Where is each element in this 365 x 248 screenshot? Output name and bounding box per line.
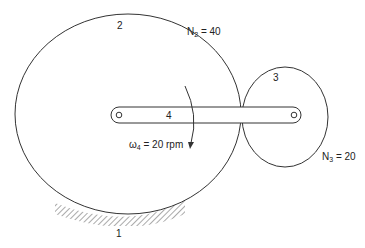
label-arm-4: 4 xyxy=(166,110,172,121)
label-gear-2: 2 xyxy=(117,20,123,31)
label-ground-1: 1 xyxy=(116,228,122,239)
arrowhead-icon xyxy=(188,142,194,149)
arm-speed-label: ω4 = 20 rpm xyxy=(129,139,183,153)
planetary-gear-diagram xyxy=(0,0,365,248)
arm-4-link xyxy=(111,107,301,123)
label-gear-3: 3 xyxy=(273,72,279,83)
gear-2-teeth-label: N2 = 40 xyxy=(187,26,221,40)
gear-3-teeth-label: N3 = 20 xyxy=(322,151,356,165)
